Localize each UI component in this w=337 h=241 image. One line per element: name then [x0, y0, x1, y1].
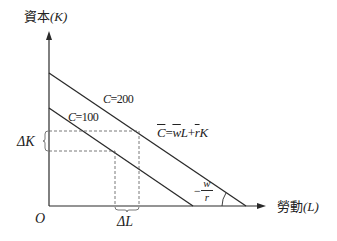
delta-l-label: ΔL — [117, 215, 133, 229]
y-axis-label-var: (K) — [50, 9, 67, 24]
isocost-line-200 — [49, 73, 246, 206]
line-label-100-var: C — [68, 110, 76, 124]
y-axis-arrow-icon — [46, 31, 52, 40]
line-label-200-var: C — [103, 92, 111, 106]
delta-l-text: ΔL — [117, 214, 133, 229]
delta-k-text: ΔK — [17, 134, 35, 149]
delta-k-label: ΔK — [17, 135, 35, 149]
x-axis-label-var: (L) — [303, 199, 319, 214]
x-axis-arrow-icon — [257, 203, 266, 209]
line-label-200-value: =200 — [111, 92, 134, 106]
equation-plus: + — [188, 125, 195, 140]
slope-angle-arc — [222, 193, 226, 206]
origin-label: O — [35, 212, 45, 226]
isocost-equation: C=wL+rK — [157, 126, 208, 139]
line-label-100-value: =100 — [76, 110, 99, 124]
x-axis-label: 勞動(L) — [277, 200, 319, 213]
equation-capital: K — [200, 125, 208, 140]
equation-labor: L — [181, 125, 188, 140]
y-axis-label-text: 資本 — [24, 9, 50, 24]
delta-k-brace — [43, 131, 48, 151]
delta-l-brace — [115, 207, 139, 212]
slope-numerator: w — [201, 178, 213, 189]
dashed-guides — [49, 131, 139, 206]
x-axis-label-text: 勞動 — [277, 199, 303, 214]
equation-wage: w — [172, 125, 180, 140]
slope-sign: − — [194, 185, 201, 197]
slope-denominator: r — [201, 192, 213, 203]
line-label-100: C=100 — [68, 111, 98, 123]
line-label-200: C=200 — [103, 93, 133, 105]
y-axis-label: 資本(K) — [24, 10, 67, 23]
